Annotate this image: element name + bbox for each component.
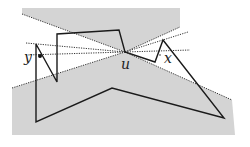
label-x: x: [164, 51, 172, 65]
dotted-line: [125, 50, 190, 52]
shaded-region-upper: [22, 8, 180, 52]
diagram-svg: [0, 0, 250, 147]
label-y: y: [24, 50, 32, 64]
point-y-marker: [38, 54, 42, 58]
diagram-canvas: y u x: [0, 0, 250, 147]
point-x-marker: [159, 54, 161, 56]
label-u: u: [121, 57, 130, 71]
